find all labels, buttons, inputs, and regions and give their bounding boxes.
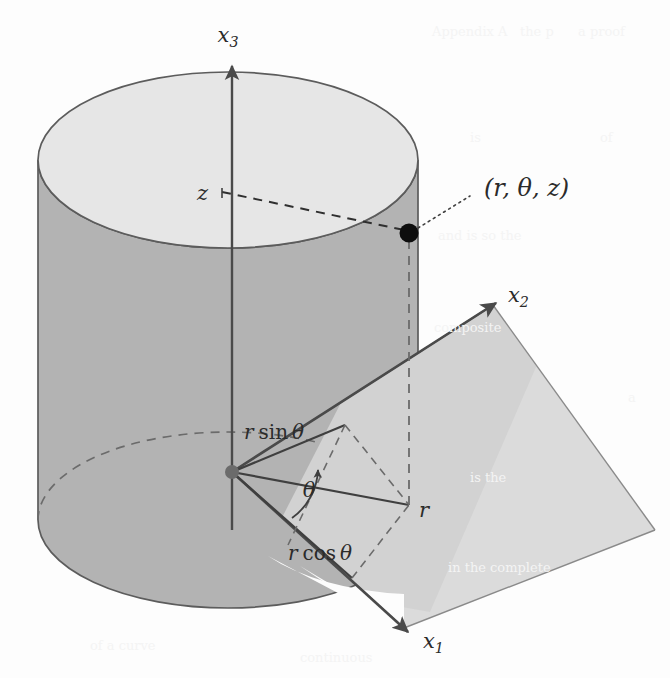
angle-label-theta: θ — [303, 478, 316, 502]
point-coordinates-label: (r, θ, z) — [484, 174, 569, 202]
cylindrical-coordinates-diagram: x3 x2 x1 (r, θ, z) z r θ rsinθ rcosθ — [0, 0, 670, 678]
origin-marker[interactable] — [225, 465, 239, 479]
r-cos-theta-prefix: r — [288, 541, 299, 565]
axis-label-x2-subscript: 2 — [519, 294, 529, 310]
axis-label-x2: x2 — [508, 283, 529, 310]
axis-label-x3: x3 — [218, 23, 239, 50]
cylindrical-point-marker[interactable] — [400, 224, 419, 243]
r-cos-theta-symbol: θ — [340, 541, 352, 565]
r-sin-theta-prefix: r — [244, 420, 255, 444]
height-label-z: z — [196, 181, 209, 205]
figure-root: x3 x2 x1 (r, θ, z) z r θ rsinθ rcosθ App… — [0, 0, 670, 678]
axis-label-x3-base: x — [218, 23, 230, 47]
axis-label-x2-base: x — [508, 283, 520, 307]
axis-label-x1-subscript: 1 — [435, 640, 444, 656]
axis-label-x3-subscript: 3 — [229, 34, 238, 50]
r-cos-theta-function: cos — [303, 541, 337, 565]
axis-label-x1: x1 — [423, 629, 444, 656]
cylinder-top-face — [38, 72, 418, 248]
r-sin-theta-function: sin — [259, 420, 289, 444]
axis-label-x1-base: x — [423, 629, 435, 653]
point-leader-line — [418, 196, 470, 228]
r-sin-theta-symbol: θ — [292, 420, 304, 444]
r-sin-theta-label: rsinθ — [244, 420, 304, 444]
